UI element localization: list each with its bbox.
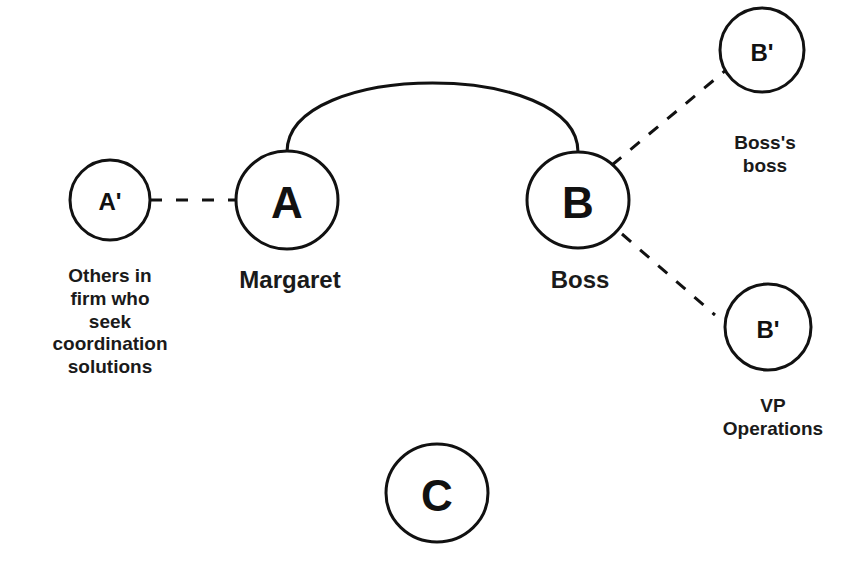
label-line: Boss's (700, 132, 830, 155)
node-b-prime-bottom: B' (725, 284, 811, 370)
node-b: B (527, 152, 629, 248)
label-b-prime-bottom: VP Operations (703, 395, 843, 441)
label-line: VP (703, 395, 843, 418)
label-line: seek (25, 311, 195, 334)
node-a-prime-letter: A' (98, 188, 121, 215)
node-b-letter: B (562, 178, 594, 227)
label-line: firm who (25, 288, 195, 311)
node-c: C (386, 444, 488, 542)
node-c-letter: C (421, 471, 453, 520)
label-line: Others in (25, 265, 195, 288)
node-b-prime-bottom-letter: B' (756, 316, 779, 343)
label-b-prime-top: Boss's boss (700, 132, 830, 178)
edge-a-to-b-arc (287, 83, 578, 152)
label-line: solutions (25, 356, 195, 379)
node-a-prime: A' (70, 160, 150, 240)
label-a-prime: Others in firm who seek coordination sol… (25, 265, 195, 379)
node-b-prime-top-letter: B' (750, 39, 773, 66)
node-b-prime-top: B' (720, 8, 804, 92)
label-b: Boss (495, 266, 665, 295)
label-line: boss (700, 155, 830, 178)
label-line: Operations (703, 418, 843, 441)
label-line: coordination (25, 333, 195, 356)
node-a-letter: A (271, 178, 303, 227)
label-a: Margaret (205, 266, 375, 295)
node-a: A (236, 151, 338, 249)
